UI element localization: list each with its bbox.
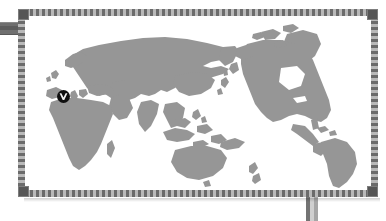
resize-handle-bottom-left[interactable]	[18, 186, 29, 197]
map-selection-frame[interactable]	[18, 9, 378, 197]
frame-border-top	[18, 9, 378, 16]
frame-drop-shadow	[24, 198, 380, 202]
world-map-canvas[interactable]	[25, 16, 371, 190]
frame-border-left	[18, 9, 25, 197]
location-marker[interactable]	[57, 90, 70, 103]
map-graphic-stage	[0, 0, 386, 221]
v-check-glyph	[60, 93, 68, 100]
resize-handle-top-right[interactable]	[367, 9, 378, 20]
resize-handle-bottom-right[interactable]	[367, 186, 378, 197]
frame-border-right	[371, 9, 378, 197]
frame-border-bottom	[18, 190, 378, 197]
resize-handle-top-left[interactable]	[18, 9, 29, 20]
